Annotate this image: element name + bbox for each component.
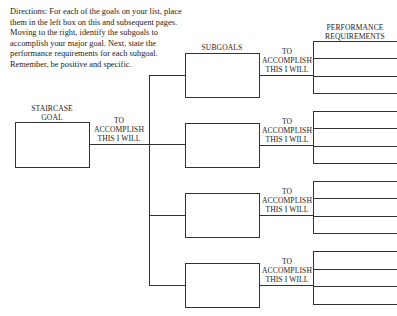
subgoal-box-2[interactable] [185, 123, 260, 168]
performance-line-2[interactable] [313, 128, 397, 129]
label-line: THIS I WILL [259, 135, 315, 144]
branch-line [149, 75, 185, 76]
performance-line-2[interactable] [313, 198, 397, 199]
label-line: ACCOMPLISH [259, 56, 315, 65]
performance-line-2[interactable] [313, 58, 397, 59]
label-line: THIS I WILL [259, 205, 315, 214]
staircase-goal-label-line1: STAIRCASE [15, 104, 89, 113]
branch-line [259, 145, 313, 146]
bracket-line [313, 251, 314, 304]
label-line: ACCOMPLISH [259, 196, 315, 205]
label-line: ACCOMPLISH [259, 266, 315, 275]
branch-line [259, 75, 313, 76]
branch-line [149, 215, 185, 216]
label-line: TO [259, 47, 315, 56]
to-accomplish-label: TO ACCOMPLISH THIS I WILL [259, 47, 315, 74]
subgoal-box-3[interactable] [185, 193, 260, 238]
to-accomplish-label-main: TO ACCOMPLISH THIS I WILL [88, 116, 150, 143]
subgoal-box-1[interactable] [185, 53, 260, 98]
label-line: ACCOMPLISH [88, 125, 150, 134]
label-line: THIS I WILL [259, 65, 315, 74]
to-accomplish-label: TO ACCOMPLISH THIS I WILL [259, 187, 315, 214]
staircase-goal-label-line2: GOAL [15, 113, 89, 122]
performance-line-4[interactable] [313, 163, 397, 164]
performance-line-1[interactable] [313, 251, 397, 252]
performance-line-3[interactable] [313, 146, 397, 147]
performance-line-1[interactable] [313, 111, 397, 112]
performance-line-4[interactable] [313, 93, 397, 94]
performance-line-1[interactable] [313, 181, 397, 182]
bracket-line [313, 181, 314, 233]
to-accomplish-label: TO ACCOMPLISH THIS I WILL [259, 257, 315, 284]
staircase-goal-box[interactable] [15, 122, 90, 168]
label-line: TO [88, 116, 150, 125]
label-line: PERFORMANCE [313, 23, 397, 32]
performance-line-1[interactable] [313, 41, 397, 42]
subgoals-label: SUBGOALS [185, 43, 259, 52]
label-line: TO [259, 117, 315, 126]
directions-text: Directions: For each of the goals on you… [10, 7, 190, 71]
label-line: THIS I WILL [259, 275, 315, 284]
bracket-line [313, 41, 314, 93]
to-accomplish-label: TO ACCOMPLISH THIS I WILL [259, 117, 315, 144]
connector-trunk [149, 75, 150, 286]
branch-line [259, 285, 313, 286]
label-line: THIS I WILL [88, 134, 150, 143]
label-line: REQUIREMENTS [313, 32, 397, 41]
performance-line-4[interactable] [313, 233, 397, 234]
performance-line-2[interactable] [313, 269, 397, 270]
label-line: ACCOMPLISH [259, 126, 315, 135]
performance-line-3[interactable] [313, 286, 397, 287]
branch-line [149, 285, 185, 286]
label-line: TO [259, 187, 315, 196]
connector-line [89, 144, 150, 145]
performance-line-3[interactable] [313, 76, 397, 77]
performance-requirements-label: PERFORMANCE REQUIREMENTS [313, 23, 397, 41]
performance-line-3[interactable] [313, 216, 397, 217]
label-line: TO [259, 257, 315, 266]
bracket-line [313, 111, 314, 163]
subgoal-box-4[interactable] [185, 263, 260, 308]
performance-line-4[interactable] [313, 304, 397, 305]
staircase-goal-label: STAIRCASE GOAL [15, 104, 89, 122]
branch-line [149, 144, 185, 145]
branch-line [259, 215, 313, 216]
